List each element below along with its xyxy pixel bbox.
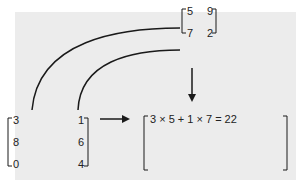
result-entry: 3 × 5 + 1 × 7 = 22 bbox=[150, 113, 237, 125]
diagram-lines bbox=[0, 0, 307, 189]
matrix-a-cell: 6 bbox=[78, 136, 84, 148]
matrix-b-cell: 2 bbox=[207, 27, 213, 39]
matrix-a-cell: 3 bbox=[13, 114, 19, 126]
matrix-b-cell: 5 bbox=[187, 5, 193, 17]
matrix-b-cell: 7 bbox=[187, 27, 193, 39]
matrix-a-cell: 8 bbox=[13, 136, 19, 148]
matrix-b-cell: 9 bbox=[207, 5, 213, 17]
matrix-a-cell: 0 bbox=[13, 158, 19, 170]
matrix-a-cell: 1 bbox=[78, 114, 84, 126]
matrix-a-cell: 4 bbox=[78, 158, 84, 170]
